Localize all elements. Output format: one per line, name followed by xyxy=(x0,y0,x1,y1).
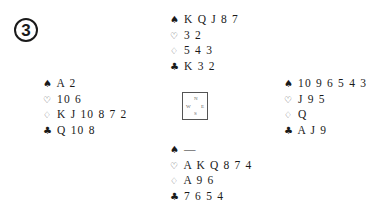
east-hearts: J 9 5 xyxy=(298,93,326,105)
compass-east: E xyxy=(201,104,204,109)
club-icon: ♣ xyxy=(170,189,180,205)
east-clubs: A J 9 xyxy=(297,124,327,136)
spade-icon: ♠ xyxy=(170,142,180,158)
club-icon: ♣ xyxy=(284,123,294,139)
south-spades: — xyxy=(184,143,197,155)
north-diamonds: 5 4 3 xyxy=(184,44,213,56)
diamond-icon: ♢ xyxy=(170,44,180,60)
south-hearts-row: ♡ A K Q 8 7 4 xyxy=(170,158,253,174)
east-hearts-row: ♡ J 9 5 xyxy=(284,92,367,108)
north-clubs-row: ♣ K 3 2 xyxy=(170,59,239,75)
north-diamonds-row: ♢ 5 4 3 xyxy=(170,43,239,59)
east-spades: 10 9 6 5 4 3 xyxy=(298,77,367,89)
spade-icon: ♠ xyxy=(43,76,53,92)
east-clubs-row: ♣ A J 9 xyxy=(284,123,367,139)
south-clubs: 7 6 5 4 xyxy=(184,190,224,202)
compass-west: W xyxy=(186,104,191,109)
compass-south: S xyxy=(194,111,197,116)
diamond-icon: ♢ xyxy=(284,108,294,124)
heart-icon: ♡ xyxy=(43,93,53,109)
west-hearts: 10 6 xyxy=(57,93,82,105)
hand-south: ♠ — ♡ A K Q 8 7 4 ♢ A 9 6 ♣ 7 6 5 4 xyxy=(170,142,253,204)
west-clubs: Q 10 8 xyxy=(57,124,96,136)
east-diamonds-row: ♢ Q xyxy=(284,107,367,123)
compass-box: N W E S xyxy=(182,92,208,120)
club-icon: ♣ xyxy=(170,59,180,75)
west-diamonds: K J 10 8 7 2 xyxy=(57,108,127,120)
deal-number: 3 xyxy=(21,22,30,39)
north-spades-row: ♠ K Q J 8 7 xyxy=(170,12,239,28)
west-diamonds-row: ♢ K J 10 8 7 2 xyxy=(43,107,127,123)
west-spades-row: ♠ A 2 xyxy=(43,76,127,92)
heart-icon: ♡ xyxy=(284,93,294,109)
hand-west: ♠ A 2 ♡ 10 6 ♢ K J 10 8 7 2 ♣ Q 10 8 xyxy=(43,76,127,138)
club-icon: ♣ xyxy=(43,123,53,139)
west-hearts-row: ♡ 10 6 xyxy=(43,92,127,108)
south-diamonds-row: ♢ A 9 6 xyxy=(170,173,253,189)
east-spades-row: ♠ 10 9 6 5 4 3 xyxy=(284,76,367,92)
compass-north: N xyxy=(194,96,198,101)
west-clubs-row: ♣ Q 10 8 xyxy=(43,123,127,139)
diamond-icon: ♢ xyxy=(43,108,53,124)
south-clubs-row: ♣ 7 6 5 4 xyxy=(170,189,253,205)
west-spades: A 2 xyxy=(56,77,76,89)
east-diamonds: Q xyxy=(298,108,308,120)
north-hearts: 3 2 xyxy=(184,29,202,41)
diamond-icon: ♢ xyxy=(170,174,180,190)
spade-icon: ♠ xyxy=(170,12,180,28)
north-hearts-row: ♡ 3 2 xyxy=(170,28,239,44)
heart-icon: ♡ xyxy=(170,159,180,175)
deal-number-badge: 3 xyxy=(14,18,38,42)
hand-north: ♠ K Q J 8 7 ♡ 3 2 ♢ 5 4 3 ♣ K 3 2 xyxy=(170,12,239,74)
heart-icon: ♡ xyxy=(170,29,180,45)
hand-east: ♠ 10 9 6 5 4 3 ♡ J 9 5 ♢ Q ♣ A J 9 xyxy=(284,76,367,138)
spade-icon: ♠ xyxy=(284,76,294,92)
south-diamonds: A 9 6 xyxy=(183,174,214,186)
north-clubs: K 3 2 xyxy=(184,60,216,72)
south-hearts: A K Q 8 7 4 xyxy=(183,159,252,171)
north-spades: K Q J 8 7 xyxy=(184,13,239,25)
south-spades-row: ♠ — xyxy=(170,142,253,158)
